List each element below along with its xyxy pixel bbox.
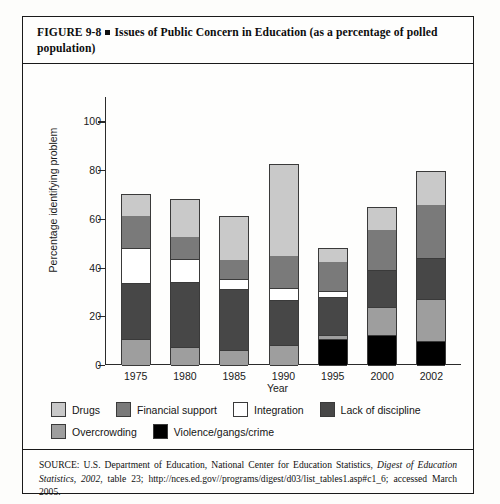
bar-segment-financial-support[interactable] [270, 256, 298, 289]
chart-legend: DrugsFinancial supportIntegrationLack of… [23, 402, 473, 446]
bar-segment-overcrowding[interactable] [368, 308, 396, 336]
chart-axes: 020406080100 197519801985199019952000200… [105, 97, 450, 365]
bullet-square-icon [105, 30, 110, 35]
y-tick-label: 60 [89, 213, 101, 225]
legend-row-primary: DrugsFinancial supportIntegrationLack of… [51, 402, 445, 417]
bar-stack[interactable] [318, 248, 348, 365]
x-tick-label: 2002 [420, 370, 443, 382]
bar-group: 1975198019851990199520002002 [105, 97, 450, 365]
y-tick-label: 100 [83, 115, 101, 127]
y-tick-label: 40 [89, 262, 101, 274]
bar-stack[interactable] [269, 164, 299, 365]
figure-page: FIGURE 9-8Issues of Public Concern in Ed… [0, 0, 500, 504]
x-tick-label: 1980 [173, 370, 196, 382]
bar-segment-overcrowding[interactable] [417, 300, 445, 341]
y-tick-label: 0 [95, 359, 101, 371]
legend-swatch-icon [153, 424, 168, 439]
bar-segment-drugs[interactable] [368, 208, 396, 230]
bar-segment-violence[interactable] [319, 340, 347, 366]
x-tick-label: 1995 [321, 370, 344, 382]
bar-segment-lack-of-discipline[interactable] [171, 283, 199, 348]
bar-segment-financial-support[interactable] [122, 216, 150, 249]
bar-segment-violence[interactable] [417, 342, 445, 366]
legend-item[interactable]: Lack of discipline [320, 402, 421, 417]
bar-stack[interactable] [219, 216, 249, 365]
bar-segment-lack-of-discipline[interactable] [417, 259, 445, 300]
legend-swatch-icon [116, 402, 131, 417]
x-axis-label: Year [105, 382, 450, 394]
bar-segment-drugs[interactable] [319, 249, 347, 262]
legend-item[interactable]: Violence/gangs/crime [153, 424, 274, 439]
bar-segment-integration[interactable] [122, 249, 150, 284]
legend-row-secondary: OvercrowdingViolence/gangs/crime [51, 424, 445, 439]
bar-segment-drugs[interactable] [417, 172, 445, 205]
bar-segment-lack-of-discipline[interactable] [270, 301, 298, 346]
legend-label: Integration [254, 404, 304, 416]
bar-segment-integration[interactable] [171, 260, 199, 283]
bar-segment-integration[interactable] [270, 289, 298, 301]
source-note: SOURCE: U.S. Department of Education, Na… [23, 449, 473, 499]
legend-label: Drugs [72, 404, 100, 416]
bar-segment-integration[interactable] [220, 280, 248, 291]
legend-label: Financial support [137, 404, 217, 416]
bar-stack[interactable] [121, 194, 151, 365]
bar-segment-financial-support[interactable] [220, 260, 248, 279]
legend-swatch-icon [320, 402, 335, 417]
bar-segment-lack-of-discipline[interactable] [220, 290, 248, 351]
x-tick-label: 1985 [223, 370, 246, 382]
bar-stack[interactable] [416, 171, 446, 365]
legend-swatch-icon [51, 424, 66, 439]
bar-segment-overcrowding[interactable] [122, 340, 150, 366]
bar-segment-financial-support[interactable] [319, 262, 347, 291]
bar-stack[interactable] [367, 207, 397, 365]
legend-item[interactable]: Drugs [51, 402, 100, 417]
figure-caption: FIGURE 9-8Issues of Public Concern in Ed… [23, 17, 473, 64]
x-tick-label: 1975 [124, 370, 147, 382]
legend-item[interactable]: Integration [233, 402, 304, 417]
bar-stack[interactable] [170, 199, 200, 365]
figure-container: FIGURE 9-8Issues of Public Concern in Ed… [22, 16, 474, 494]
legend-swatch-icon [51, 402, 66, 417]
legend-label: Lack of discipline [341, 404, 421, 416]
chart-plot-area: Percentage identifying problem 020406080… [23, 69, 473, 399]
x-tick-label: 1990 [272, 370, 295, 382]
legend-label: Violence/gangs/crime [174, 426, 274, 438]
bar-segment-overcrowding[interactable] [171, 348, 199, 366]
legend-item[interactable]: Financial support [116, 402, 217, 417]
bar-segment-lack-of-discipline[interactable] [122, 284, 150, 340]
bar-segment-drugs[interactable] [122, 195, 150, 216]
bar-segment-financial-support[interactable] [368, 230, 396, 271]
bar-segment-financial-support[interactable] [417, 205, 445, 259]
legend-label: Overcrowding [72, 426, 137, 438]
x-tick-label: 2000 [370, 370, 393, 382]
y-tick-label: 20 [89, 310, 101, 322]
bar-segment-violence[interactable] [368, 336, 396, 366]
bar-segment-financial-support[interactable] [171, 237, 199, 260]
source-suffix: , table 23; http://nces.ed.gov//programs… [39, 473, 457, 498]
bar-segment-drugs[interactable] [171, 200, 199, 237]
bar-segment-lack-of-discipline[interactable] [368, 271, 396, 308]
bar-segment-drugs[interactable] [270, 165, 298, 256]
source-prefix: SOURCE: U.S. Department of Education, Na… [39, 459, 377, 470]
bar-segment-lack-of-discipline[interactable] [319, 298, 347, 336]
legend-item[interactable]: Overcrowding [51, 424, 137, 439]
bar-segment-overcrowding[interactable] [270, 346, 298, 365]
figure-number: FIGURE 9-8 [37, 26, 101, 39]
bar-segment-overcrowding[interactable] [220, 351, 248, 366]
y-tick-label: 80 [89, 164, 101, 176]
y-axis-label: Percentage identifying problem [47, 100, 59, 300]
legend-swatch-icon [233, 402, 248, 417]
bar-segment-drugs[interactable] [220, 217, 248, 260]
